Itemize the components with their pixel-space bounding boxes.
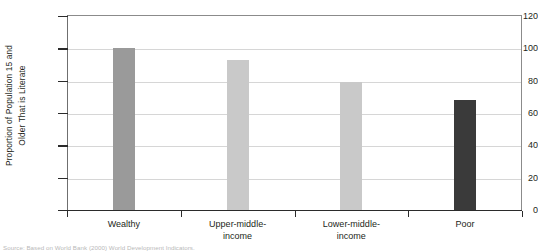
x-tick-mark <box>67 211 68 217</box>
y-tick-mark <box>58 178 68 179</box>
x-axis-category-label-line1: Upper-middle- <box>209 219 266 229</box>
y-tick-mark <box>58 113 68 114</box>
source-note: Source: Based on World Bank (2000) World… <box>3 244 195 251</box>
y-axis-title-line2: Older That is Literate <box>15 8 28 204</box>
y-tick-label: 100 <box>486 43 538 53</box>
bar <box>113 48 135 210</box>
x-tick-mark <box>522 211 523 217</box>
y-tick-label: 120 <box>486 11 538 21</box>
x-axis-category-label: Lower-middle-income <box>295 219 409 242</box>
x-tick-mark <box>295 211 296 217</box>
y-tick-label: 40 <box>486 140 538 150</box>
bar <box>227 60 249 210</box>
x-axis-category-label-line2: income <box>181 231 295 243</box>
x-axis-category-label: Wealthy <box>67 219 181 231</box>
x-axis-category-label-line2: income <box>295 231 409 243</box>
x-axis-category-label-line1: Poor <box>456 219 475 229</box>
y-tick-mark <box>58 81 68 82</box>
chart-figure: Proportion of Population 15 and Older Th… <box>0 0 538 252</box>
y-axis-title-line1: Proportion of Population 15 and <box>4 45 14 166</box>
bar <box>454 100 476 210</box>
bars-layer <box>68 16 521 210</box>
y-axis-title: Proportion of Population 15 and Older Th… <box>0 0 30 215</box>
x-tick-mark <box>181 211 182 217</box>
y-tick-mark <box>58 48 68 49</box>
x-axis-category-label: Poor <box>408 219 522 231</box>
y-tick-label: 80 <box>486 76 538 86</box>
y-tick-label: 60 <box>486 108 538 118</box>
x-tick-mark <box>408 211 409 217</box>
y-tick-mark <box>58 16 68 17</box>
y-tick-label: 20 <box>486 173 538 183</box>
x-axis-category-label-line1: Wealthy <box>108 219 140 229</box>
bar <box>340 82 362 210</box>
y-tick-mark <box>58 145 68 146</box>
x-axis-category-label: Upper-middle-income <box>181 219 295 242</box>
y-tick-label: 0 <box>486 205 538 215</box>
x-axis-category-label-line1: Lower-middle- <box>323 219 380 229</box>
